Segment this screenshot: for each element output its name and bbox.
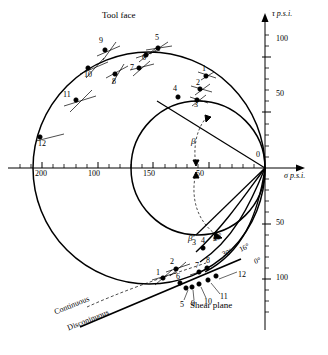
continuous-trend-line bbox=[87, 263, 206, 307]
data-point[interactable] bbox=[214, 274, 218, 278]
figure-canvas bbox=[0, 0, 328, 355]
tool-face-point-label-5: 5 bbox=[155, 33, 159, 42]
tau-tick-label-minus-50: 50 bbox=[276, 218, 284, 227]
data-point[interactable] bbox=[190, 285, 194, 289]
tau-tick-label-100: 100 bbox=[276, 34, 288, 43]
data-point[interactable] bbox=[178, 281, 182, 285]
axis-label-tau: τ p.s.i. bbox=[272, 9, 292, 18]
tool-face-point-label-8: 8 bbox=[112, 77, 116, 86]
beta-prime-arc bbox=[194, 172, 218, 236]
tool-face-point-label-4: 4 bbox=[173, 84, 177, 93]
shear-plane-point-label-5: 5 bbox=[180, 300, 184, 309]
data-point[interactable] bbox=[176, 95, 180, 99]
angle-line-45 bbox=[196, 168, 265, 235]
tool-face-point-label-11: 11 bbox=[63, 90, 71, 99]
beta-arrow-head bbox=[205, 115, 211, 122]
title-tool-face: Tool face bbox=[102, 10, 136, 20]
sigma-minor-ticks bbox=[20, 164, 254, 168]
beta-label: β bbox=[191, 136, 195, 146]
sigma-tick-label-150: 150 bbox=[143, 169, 155, 178]
shear-plane-point-label-12: 12 bbox=[238, 270, 246, 279]
shear-plane-point-label-9: 9 bbox=[191, 299, 195, 308]
tau-axis-arrow bbox=[262, 13, 269, 22]
shear-plane-point-label-11: 11 bbox=[220, 292, 228, 301]
shear-plane-point-label-6: 6 bbox=[176, 272, 180, 281]
sigma-tick-label-200: 200 bbox=[35, 169, 47, 178]
shear-plane-point-label-10: 10 bbox=[204, 297, 212, 306]
tool-face-point-label-9: 9 bbox=[99, 36, 103, 45]
tool-face-point-label-2: 2 bbox=[196, 78, 200, 87]
tool-face-point-label-1: 1 bbox=[202, 64, 206, 73]
sigma-tick-label-100: 100 bbox=[88, 169, 100, 178]
sigma-major-ticks bbox=[42, 162, 209, 168]
tool-face-point-label-6: 6 bbox=[142, 53, 146, 62]
axes-group bbox=[8, 13, 305, 330]
tool-face-point-label-7: 7 bbox=[130, 63, 134, 72]
origin-label: 0 bbox=[256, 150, 260, 159]
tool-face-point-label-12: 12 bbox=[38, 139, 46, 148]
tool-face-point-label-10: 10 bbox=[84, 70, 92, 79]
data-point[interactable] bbox=[206, 278, 210, 282]
tool-face-point-label-3: 3 bbox=[194, 100, 198, 109]
data-point[interactable] bbox=[197, 282, 201, 286]
beta-radial-line bbox=[157, 101, 265, 168]
shear-plane-point-label-3: 3 bbox=[192, 238, 196, 247]
mohr-circle-figure: Tool face Shear plane τ p.s.i. σ p.s.i. … bbox=[0, 0, 328, 355]
data-point[interactable] bbox=[205, 266, 209, 270]
data-point[interactable] bbox=[201, 246, 205, 250]
shear-plane-point-label-2: 2 bbox=[170, 257, 174, 266]
shear-plane-point-label-7: 7 bbox=[195, 261, 199, 270]
data-point[interactable] bbox=[184, 286, 188, 290]
tau-tick-label-50: 50 bbox=[276, 89, 284, 98]
shear-plane-point-label-1: 1 bbox=[156, 268, 160, 277]
shear-plane-point-label-8: 8 bbox=[206, 256, 210, 265]
sigma-tick-label-50: 50 bbox=[196, 169, 204, 178]
shear-plane-point-label-4: 4 bbox=[201, 236, 205, 245]
axis-label-sigma: σ p.s.i. bbox=[284, 171, 305, 180]
tau-tick-label-minus-100: 100 bbox=[276, 273, 288, 282]
